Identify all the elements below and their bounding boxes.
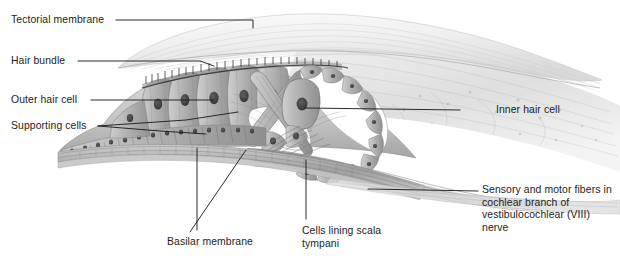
label-supporting-cells: Supporting cells <box>11 120 87 133</box>
label-cells-lining-scala-tympani: Cells lining scala tympani <box>302 225 392 250</box>
label-sensory-motor-fibers: Sensory and motor fibers in cochlear bra… <box>482 184 616 234</box>
label-inner-hair-cell: Inner hair cell <box>496 104 560 117</box>
label-outer-hair-cell: Outer hair cell <box>11 94 77 107</box>
figure-canvas: Tectorial membrane Hair bundle Outer hai… <box>0 0 620 266</box>
label-hair-bundle: Hair bundle <box>11 55 65 68</box>
label-tectorial-membrane: Tectorial membrane <box>11 14 104 27</box>
label-basilar-membrane: Basilar membrane <box>167 236 253 249</box>
